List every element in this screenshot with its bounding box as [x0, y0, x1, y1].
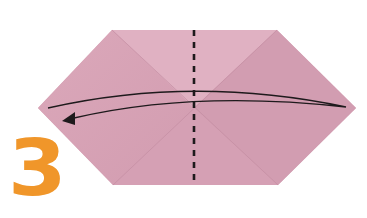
origami-diagram-canvas: 3 — [0, 0, 367, 218]
step-number: 3 — [8, 128, 62, 208]
